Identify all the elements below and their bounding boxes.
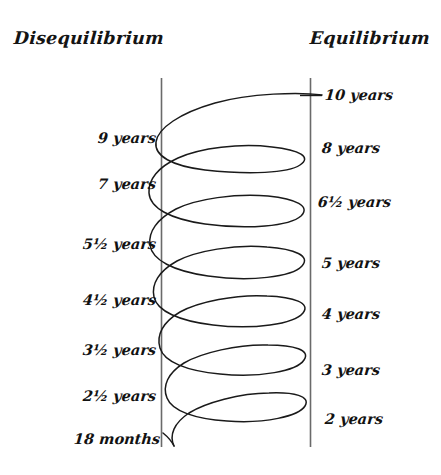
axis-lines: [162, 78, 311, 447]
left-label-5-5-years: 5½ years: [82, 237, 156, 252]
left-label-2-5-years: 2½ years: [82, 389, 156, 404]
left-label-18-months: 18 months: [73, 432, 160, 447]
spiral-diagram: Disequilibrium Equilibrium 9 years 7 yea…: [0, 0, 441, 475]
right-label-5-years: 5 years: [321, 256, 380, 271]
left-label-7-years: 7 years: [97, 177, 156, 192]
spiral-coil: [149, 94, 322, 446]
left-label-3-5-years: 3½ years: [82, 343, 156, 358]
right-label-10-years: 10 years: [324, 88, 393, 103]
left-label-9-years: 9 years: [97, 131, 156, 146]
left-label-4-5-years: 4½ years: [82, 293, 156, 308]
spiral-path: [149, 94, 322, 446]
right-label-4-years: 4 years: [321, 307, 380, 322]
right-label-3-years: 3 years: [321, 363, 380, 378]
right-label-6-5-years: 6½ years: [317, 195, 391, 210]
diagram-canvas: [0, 0, 441, 475]
right-label-2-years: 2 years: [324, 412, 383, 427]
right-label-8-years: 8 years: [321, 141, 380, 156]
